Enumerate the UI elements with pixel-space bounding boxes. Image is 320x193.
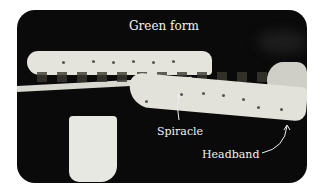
spiracle-label: Spiracle	[157, 125, 203, 138]
title-label: Green form	[129, 19, 199, 33]
headband-label: Headband	[202, 148, 259, 161]
